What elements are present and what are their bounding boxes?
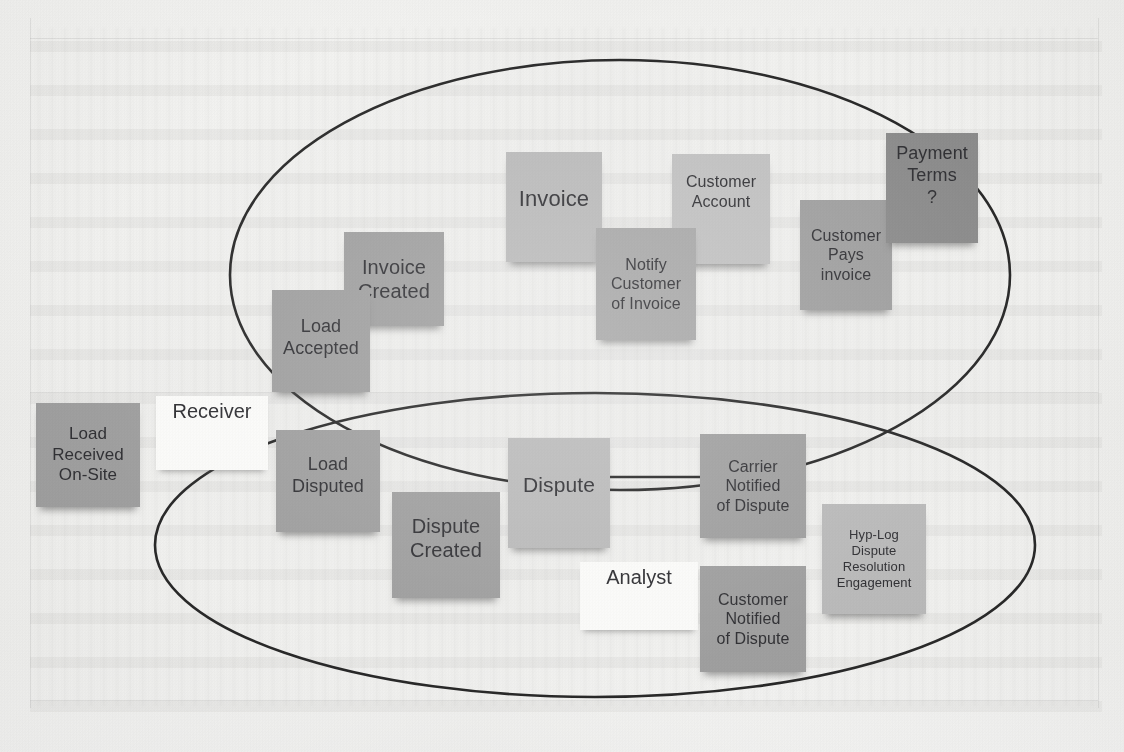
actor-label-receiver[interactable]: Receiver (156, 396, 268, 470)
note-hyp-log-dispute-resolution-engagement[interactable]: Hyp-LogDisputeResolutionEngagement (822, 504, 926, 614)
scan-seam-horizontal-bottom (30, 700, 1098, 701)
note-customer-notified-of-dispute-label: CustomerNotifiedof Dispute (705, 590, 801, 649)
note-dispute-label: Dispute (513, 472, 605, 498)
note-dispute-created-label: DisputeCreated (397, 514, 495, 563)
actor-label-analyst[interactable]: Analyst (580, 562, 698, 630)
note-customer-pays-invoice[interactable]: CustomerPaysinvoice (800, 200, 892, 310)
note-carrier-notified-of-dispute-label: CarrierNotifiedof Dispute (705, 457, 801, 516)
actor-label-analyst-text: Analyst (606, 566, 672, 589)
note-dispute-created[interactable]: DisputeCreated (392, 492, 500, 598)
note-notify-customer-of-invoice-label: NotifyCustomerof Invoice (601, 255, 691, 314)
background-text-bleedthrough-secondary (34, 28, 1094, 706)
scan-seam-horizontal-mid (30, 392, 1098, 393)
note-customer-pays-invoice-label: CustomerPaysinvoice (805, 226, 887, 285)
note-load-received-on-site[interactable]: LoadReceivedOn-Site (36, 403, 140, 507)
actor-label-receiver-text: Receiver (173, 400, 252, 423)
scan-seam-vertical-left (30, 18, 31, 708)
note-load-received-on-site-label: LoadReceivedOn-Site (41, 424, 135, 486)
scan-seam-vertical-right (1098, 18, 1099, 708)
note-load-accepted[interactable]: LoadAccepted (272, 290, 370, 392)
note-load-accepted-label: LoadAccepted (277, 316, 365, 360)
note-load-disputed[interactable]: LoadDisputed (276, 430, 380, 532)
scan-seam-horizontal-top (30, 38, 1098, 39)
note-hyp-log-label: Hyp-LogDisputeResolutionEngagement (827, 527, 921, 590)
note-carrier-notified-of-dispute[interactable]: CarrierNotifiedof Dispute (700, 434, 806, 538)
note-notify-customer-of-invoice[interactable]: NotifyCustomerof Invoice (596, 228, 696, 340)
note-payment-terms[interactable]: PaymentTerms? (886, 133, 978, 243)
note-payment-terms-label: PaymentTerms? (891, 143, 973, 209)
note-load-disputed-label: LoadDisputed (281, 454, 375, 498)
note-invoice-label: Invoice (511, 186, 597, 213)
note-dispute[interactable]: Dispute (508, 438, 610, 548)
scanned-figure-page: InvoiceCreated Invoice CustomerAccount N… (0, 0, 1124, 752)
note-customer-notified-of-dispute[interactable]: CustomerNotifiedof Dispute (700, 566, 806, 672)
note-invoice[interactable]: Invoice (506, 152, 602, 262)
note-customer-account-label: CustomerAccount (677, 172, 765, 211)
